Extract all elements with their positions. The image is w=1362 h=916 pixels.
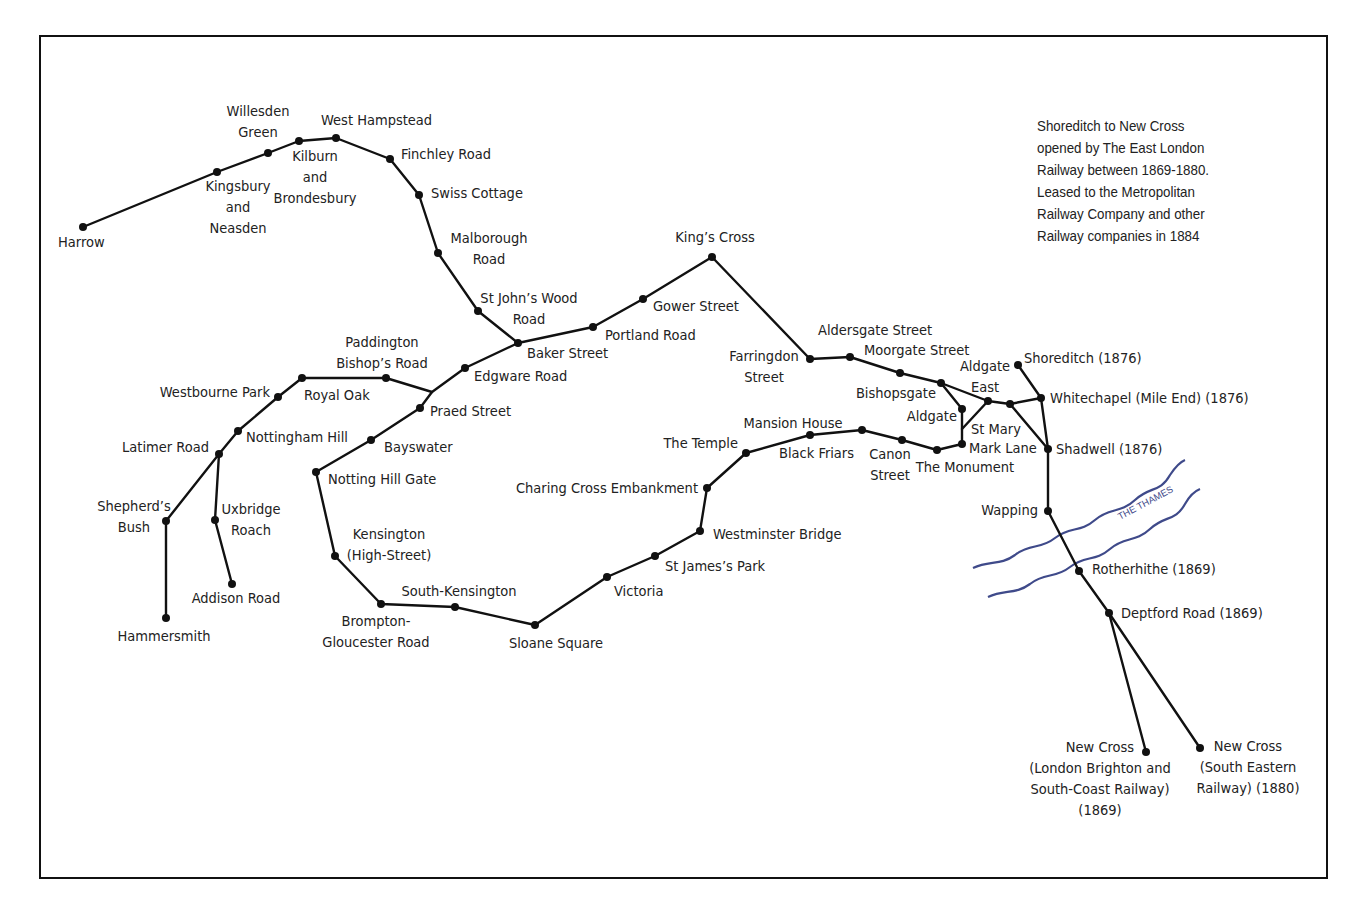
station-label-king-s-cross: King’s Cross bbox=[675, 229, 755, 245]
station-dot-nottingham-hill bbox=[234, 427, 242, 435]
station-dot-wapping bbox=[1044, 507, 1052, 515]
station-label-shepherd-s-bush: Shepherd’sBush bbox=[97, 498, 171, 535]
station-dot-shadwell-1876 bbox=[1044, 445, 1052, 453]
station-label-willesden-green: WillesdenGreen bbox=[227, 103, 290, 140]
station-dot-canon-street bbox=[898, 436, 906, 444]
station-dot-addison-road bbox=[228, 580, 236, 588]
station-label-westminster-bridge: Westminster Bridge bbox=[713, 526, 842, 542]
station-label-shoreditch-1876: Shoreditch (1876) bbox=[1024, 350, 1142, 366]
station-label-aldgate: Aldgate bbox=[907, 408, 957, 424]
station-label-farringdon-street: FarringdonStreet bbox=[729, 348, 798, 385]
station-dot-kensington-high-street bbox=[331, 552, 339, 560]
station-dot-south-kensington bbox=[451, 603, 459, 611]
station-dot-baker-street bbox=[514, 339, 522, 347]
note-line: Shoreditch to New Cross bbox=[1037, 115, 1239, 137]
station-label-charing-cross-embankment: Charing Cross Embankment bbox=[516, 480, 698, 496]
station-label-latimer-road: Latimer Road bbox=[122, 439, 209, 455]
station-label-whitechapel-mile-end-1876: Whitechapel (Mile End) (1876) bbox=[1050, 390, 1249, 406]
station-label-finchley-road: Finchley Road bbox=[401, 146, 491, 162]
station-label-brompton-gloucester-road: Brompton-Gloucester Road bbox=[322, 613, 429, 650]
station-dot-westbourne-park bbox=[274, 393, 282, 401]
station-dot-st-james-s-park bbox=[651, 552, 659, 560]
station-label-malborough-road: MalboroughRoad bbox=[451, 230, 528, 267]
station-label-victoria: Victoria bbox=[614, 583, 663, 599]
station-label-paddington-bishop-s-road: PaddingtonBishop’s Road bbox=[336, 334, 428, 371]
station-label-west-hampstead: West Hampstead bbox=[321, 112, 432, 128]
station-dot-harrow bbox=[79, 223, 87, 231]
station-label-rotherhithe-1869: Rotherhithe (1869) bbox=[1092, 561, 1216, 577]
station-label-st-john-s-wood-road: St John’s WoodRoad bbox=[480, 290, 577, 327]
station-dot-willesden-green bbox=[264, 149, 272, 157]
station-dot-sloane-square bbox=[531, 621, 539, 629]
station-label-westbourne-park: Westbourne Park bbox=[160, 384, 271, 400]
station-label-st-james-s-park: St James’s Park bbox=[665, 558, 766, 574]
station-label-kingsbury-and-neasden: KingsburyandNeasden bbox=[205, 178, 270, 236]
station-dot-bishopsgate bbox=[937, 379, 945, 387]
station-dot-king-s-cross bbox=[708, 253, 716, 261]
station-dot-aldgate-east bbox=[984, 397, 992, 405]
station-dot-finchley-road bbox=[386, 155, 394, 163]
station-label-new-cross-south-eastern-railway-1880: New Cross(South EasternRailway) (1880) bbox=[1197, 738, 1300, 796]
station-label-praed-street: Praed Street bbox=[430, 403, 511, 419]
station-dot-aldersgate-street bbox=[846, 353, 854, 361]
station-label-st-mary: St Mary bbox=[971, 421, 1021, 437]
history-note: Shoreditch to New Cross opened by The Ea… bbox=[1037, 115, 1239, 247]
station-dot-farringdon-street bbox=[806, 355, 814, 363]
station-label-black-friars: Black Friars bbox=[779, 445, 854, 461]
station-label-mansion-house: Mansion House bbox=[743, 415, 842, 431]
station-dot-shoreditch-1876 bbox=[1014, 361, 1022, 369]
station-dot-new-cross-south-eastern-railway-1880 bbox=[1196, 744, 1204, 752]
station-label-mark-lane: Mark Lane bbox=[969, 440, 1037, 456]
station-dot-notting-hill-gate bbox=[312, 468, 320, 476]
station-dot-kingsbury-and-neasden bbox=[213, 168, 221, 176]
station-label-kensington-high-street: Kensington(High-Street) bbox=[347, 526, 432, 563]
station-label-bishopsgate: Bishopsgate bbox=[856, 385, 936, 401]
station-label-deptford-road-1869: Deptford Road (1869) bbox=[1121, 605, 1263, 621]
note-line: Leased to the Metropolitan bbox=[1037, 181, 1239, 203]
station-dot-the-temple bbox=[742, 449, 750, 457]
station-dot-aldgate bbox=[958, 405, 966, 413]
station-dot-west-hampstead bbox=[332, 134, 340, 142]
station-dot-black-friars bbox=[806, 431, 814, 439]
river-label: THE THAMES bbox=[1116, 483, 1175, 521]
station-label-bayswater: Bayswater bbox=[384, 439, 453, 455]
station-dot-mansion-house bbox=[858, 426, 866, 434]
rail-line-east-london-railway bbox=[1018, 365, 1200, 748]
station-dot-latimer-road bbox=[215, 450, 223, 458]
station-dot-swiss-cottage bbox=[415, 191, 423, 199]
station-label-aldersgate-street: Aldersgate Street bbox=[818, 322, 932, 338]
station-label-shadwell-1876: Shadwell (1876) bbox=[1056, 441, 1162, 457]
station-label-portland-road: Portland Road bbox=[605, 327, 696, 343]
station-label-uxbridge-roach: UxbridgeRoach bbox=[221, 501, 280, 538]
station-dot-malborough-road bbox=[434, 249, 442, 257]
station-label-the-temple: The Temple bbox=[662, 435, 738, 451]
note-line: Railway companies in 1884 bbox=[1037, 225, 1239, 247]
note-line: Railway between 1869-1880. bbox=[1037, 159, 1239, 181]
station-dot-rotherhithe-1869 bbox=[1075, 567, 1083, 575]
station-label-gower-street: Gower Street bbox=[653, 298, 739, 314]
station-dot-royal-oak bbox=[298, 374, 306, 382]
station-dot-bayswater bbox=[367, 436, 375, 444]
station-dot-shepherd-s-bush bbox=[162, 517, 170, 525]
station-dot-portland-road bbox=[589, 323, 597, 331]
station-label-addison-road: Addison Road bbox=[192, 590, 281, 606]
station-label-nottingham-hill: Nottingham Hill bbox=[246, 429, 348, 445]
station-label-canon-street: CanonStreet bbox=[869, 446, 911, 483]
station-dot-st-mary bbox=[1006, 400, 1014, 408]
station-dot-hammersmith bbox=[162, 614, 170, 622]
station-dot-moorgate-street bbox=[896, 369, 904, 377]
station-dot-kilburn-and-brondesbury bbox=[295, 137, 303, 145]
station-dot-st-john-s-wood-road bbox=[474, 307, 482, 315]
station-dot-brompton-gloucester-road bbox=[377, 600, 385, 608]
station-label-moorgate-street: Moorgate Street bbox=[864, 342, 970, 358]
station-label-hammersmith: Hammersmith bbox=[117, 628, 210, 644]
station-label-notting-hill-gate: Notting Hill Gate bbox=[328, 471, 436, 487]
station-label-harrow: Harrow bbox=[58, 234, 105, 250]
note-line: Railway Company and other bbox=[1037, 203, 1239, 225]
station-label-wapping: Wapping bbox=[981, 502, 1038, 518]
station-label-swiss-cottage: Swiss Cottage bbox=[431, 185, 523, 201]
station-dot-praed-street bbox=[416, 404, 424, 412]
station-label-sloane-square: Sloane Square bbox=[509, 635, 603, 651]
rail-line-lbscr-branch bbox=[1109, 613, 1146, 752]
station-dot-paddington-bishop-s-road bbox=[382, 374, 390, 382]
